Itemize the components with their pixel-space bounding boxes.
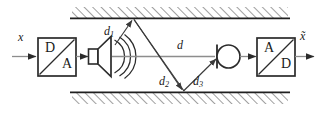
input-label-x: x	[18, 31, 23, 43]
output-label-x-tilde: x̃	[300, 30, 305, 42]
dac-bottom-char: A	[62, 57, 72, 71]
diagram-svg	[0, 0, 320, 114]
room-ceiling	[70, 7, 290, 18]
path-label-d1: d1	[104, 25, 114, 39]
path-label-d3: d3	[193, 75, 203, 89]
adc-top-char: A	[264, 41, 274, 55]
path-label-d2: d2	[159, 75, 169, 89]
path-label-d: d	[177, 39, 183, 53]
dac-top-char: D	[45, 41, 55, 55]
figure-canvas: x D A A D d1 d d2 d3 x̃	[0, 0, 320, 114]
path-ceiling-reflection	[115, 20, 184, 92]
microphone-icon	[217, 45, 240, 69]
adc-bottom-char: D	[281, 57, 291, 71]
room-floor	[70, 92, 290, 104]
path-floor-reflection	[134, 20, 216, 92]
